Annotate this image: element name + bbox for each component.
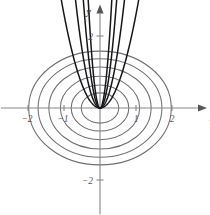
x-tick-label-1: 1 [134, 114, 139, 124]
y-axis-arrow-icon [96, 5, 103, 14]
y-axis-label: y [85, 6, 91, 17]
x-tick-label-2: 2 [170, 114, 175, 124]
coordinate-axes [1, 5, 207, 215]
x-axis-arrow-icon [198, 104, 207, 111]
x-axis-label: x [209, 112, 210, 123]
math-figure-svg: −2−1122−2xy [0, 0, 210, 215]
axis-labels: −2−1122−2xy [21, 6, 210, 186]
x-tick-label--2: −2 [21, 114, 32, 124]
y-tick-label-2: 2 [88, 32, 93, 42]
figure-container: −2−1122−2xy [0, 0, 210, 215]
y-tick-label--2: −2 [82, 176, 93, 186]
x-tick-label--1: −1 [57, 114, 68, 124]
